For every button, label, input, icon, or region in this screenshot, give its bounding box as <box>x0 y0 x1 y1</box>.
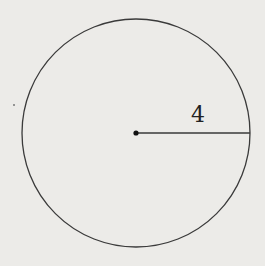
center-point <box>133 130 138 135</box>
speck-mark <box>13 104 15 106</box>
circle-diagram: 4 <box>0 0 265 266</box>
radius-label: 4 <box>191 102 205 127</box>
diagram-canvas: 4 <box>0 0 265 266</box>
